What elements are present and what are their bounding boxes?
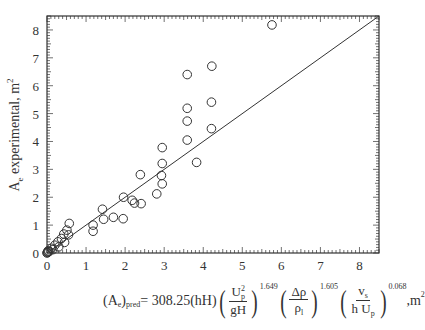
svg-text:8: 8 (33, 23, 40, 38)
data-point (158, 143, 167, 152)
data-points (43, 21, 277, 258)
data-point (119, 193, 128, 202)
svg-text:0: 0 (44, 258, 51, 273)
svg-text:6: 6 (33, 79, 40, 94)
svg-text:6: 6 (278, 258, 285, 273)
svg-text:7: 7 (317, 258, 324, 273)
data-point (89, 227, 98, 236)
data-point (137, 199, 146, 208)
svg-text:0: 0 (33, 246, 40, 261)
data-point (183, 70, 192, 79)
data-point (136, 170, 145, 179)
y-axis-title: Ae experimental, m2 (5, 78, 25, 191)
fraction-velocity: vs h Up (350, 283, 377, 318)
data-point (99, 215, 108, 224)
data-point (207, 98, 216, 107)
svg-text:3: 3 (33, 162, 40, 177)
data-point (208, 62, 217, 71)
data-point (64, 231, 73, 240)
svg-text:1: 1 (33, 218, 40, 233)
svg-text:8: 8 (356, 258, 363, 273)
data-point (268, 21, 277, 30)
data-point (183, 117, 192, 126)
data-point (158, 159, 167, 168)
data-point (158, 180, 167, 189)
scatter-chart: 012345678 012345678 Ae experimental, m2 (0, 0, 393, 280)
svg-text:2: 2 (122, 258, 129, 273)
svg-text:3: 3 (161, 258, 168, 273)
data-point (192, 158, 201, 167)
svg-text:2: 2 (33, 190, 40, 205)
data-point (183, 136, 192, 145)
data-point (65, 219, 74, 228)
svg-text:4: 4 (33, 134, 40, 149)
data-point (152, 190, 161, 199)
x-axis-formula: (Ae)pred = 308.25(hH) ( Up2 gH )1.649 ( … (103, 283, 425, 318)
fraction-density: Δρ ρl (289, 284, 308, 317)
svg-text:5: 5 (239, 258, 246, 273)
svg-text:1: 1 (83, 258, 90, 273)
svg-text:4: 4 (200, 258, 207, 273)
data-point (183, 104, 192, 113)
y-tick-labels: 012345678 (33, 23, 40, 261)
data-point (109, 213, 118, 222)
x-tick-labels: 012345678 (44, 258, 363, 273)
data-point (119, 214, 128, 223)
data-point (207, 124, 216, 133)
svg-text:5: 5 (33, 107, 40, 122)
parity-line (47, 16, 379, 253)
fraction-froude: Up2 gH (228, 284, 248, 317)
data-point (157, 171, 166, 180)
svg-text:7: 7 (33, 51, 40, 66)
data-point (98, 205, 107, 214)
